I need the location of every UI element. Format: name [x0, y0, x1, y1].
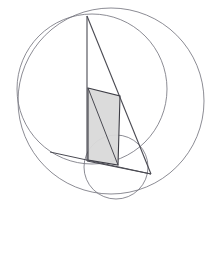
figure-canvas — [0, 0, 216, 257]
geometry-drawing — [0, 0, 216, 257]
